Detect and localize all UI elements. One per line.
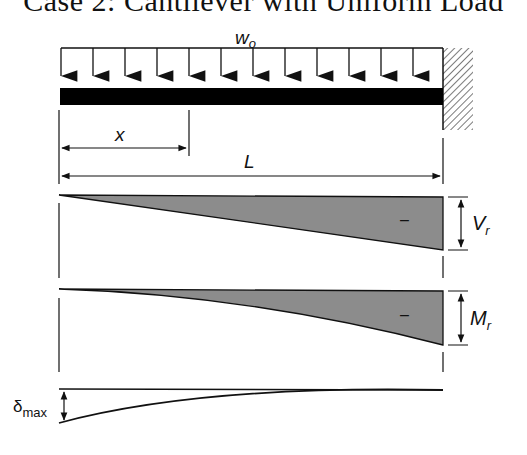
shear-label: Vr — [472, 212, 490, 238]
load-label: wo — [235, 27, 256, 51]
dimension-lines: x L — [59, 110, 443, 184]
shear-diagram: – Vr — [59, 195, 490, 278]
moment-diagram: – Mr — [59, 289, 492, 372]
distributed-load: wo — [61, 27, 443, 76]
fixed-support — [443, 48, 473, 130]
shear-sign: – — [400, 211, 409, 228]
deflection-diagram: δmax — [13, 389, 443, 423]
deflection-label: δmax — [13, 397, 48, 420]
load-arrows — [61, 48, 413, 76]
cantilever-diagram: wo x L – Vr – Mr δmax — [0, 0, 527, 455]
moment-label: Mr — [470, 307, 492, 333]
moment-sign: – — [400, 306, 409, 323]
L-label: L — [244, 151, 255, 172]
x-label: x — [114, 124, 126, 145]
beam — [60, 88, 443, 105]
